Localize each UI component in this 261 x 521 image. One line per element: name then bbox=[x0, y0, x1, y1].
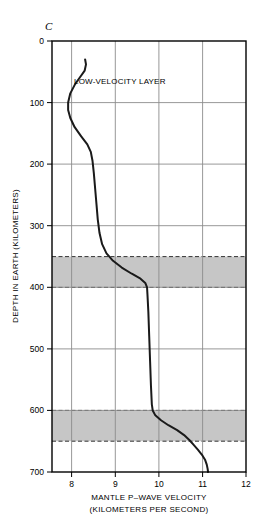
ytick-label-200: 200 bbox=[30, 159, 44, 169]
panel-label-c: C bbox=[45, 20, 53, 32]
x-axis-title-line1: MANTLE P–WAVE VELOCITY bbox=[91, 493, 207, 502]
x-axis-title-line2: (KILOMETERS PER SECOND) bbox=[90, 505, 209, 514]
ytick-label-300: 300 bbox=[30, 221, 44, 231]
ytick-label-600: 600 bbox=[30, 405, 44, 415]
ytick-label-700: 700 bbox=[30, 467, 44, 477]
ytick-label-400: 400 bbox=[30, 282, 44, 292]
xtick-label-11: 11 bbox=[198, 479, 207, 489]
xtick-label-9: 9 bbox=[113, 479, 118, 489]
ytick-label-0: 0 bbox=[39, 36, 44, 46]
low-velocity-layer-annotation: LOW-VELOCITY LAYER bbox=[74, 77, 166, 86]
ytick-label-500: 500 bbox=[30, 344, 44, 354]
y-axis-title: DEPTH IN EARTH (KILOMETERS) bbox=[11, 189, 20, 323]
plot-area bbox=[52, 41, 246, 472]
shaded-band-transition-zone-upper bbox=[52, 257, 246, 288]
seismic-velocity-depth-figure: 0 100 200 300 400 500 600 700 8 9 10 11 … bbox=[0, 0, 261, 521]
xtick-label-8: 8 bbox=[69, 479, 74, 489]
shaded-band-transition-zone-lower bbox=[52, 410, 246, 441]
ytick-label-100: 100 bbox=[30, 98, 44, 108]
xtick-label-10: 10 bbox=[154, 479, 164, 489]
xtick-label-12: 12 bbox=[241, 479, 251, 489]
